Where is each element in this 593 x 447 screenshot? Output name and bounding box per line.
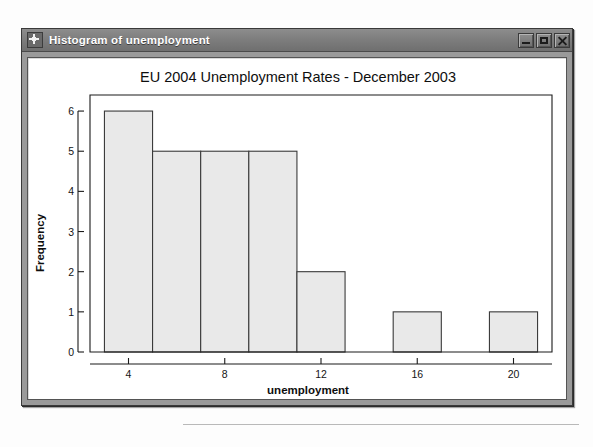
window-title: Histogram of unemployment — [49, 34, 516, 46]
y-tick-label: 5 — [68, 145, 74, 157]
x-tick-label: 16 — [411, 368, 423, 380]
histogram-bar — [249, 151, 297, 352]
histogram-bar — [201, 151, 249, 352]
histogram-bar — [104, 111, 152, 352]
histogram-plot: EU 2004 Unemployment Rates - December 20… — [28, 58, 566, 399]
scan-artifact-line — [183, 424, 579, 425]
y-tick-label: 3 — [68, 226, 74, 238]
histogram-bar — [297, 272, 345, 352]
y-tick-label: 2 — [68, 266, 74, 278]
window-titlebar[interactable]: Histogram of unemployment — [22, 29, 572, 52]
histogram-bar — [153, 151, 201, 352]
chart-title: EU 2004 Unemployment Rates - December 20… — [140, 69, 456, 85]
y-tick-label: 4 — [68, 185, 74, 197]
x-tick-label: 12 — [315, 368, 327, 380]
x-tick-label: 8 — [222, 368, 228, 380]
y-tick-label: 1 — [68, 306, 74, 318]
x-axis: 48121620 — [90, 358, 552, 380]
application-window: Histogram of unemployment EU 2004 Unempl… — [21, 28, 573, 406]
y-tick-label: 0 — [68, 346, 74, 358]
x-tick-label: 20 — [508, 368, 520, 380]
minimize-button[interactable] — [518, 33, 534, 48]
y-axis: 0123456 — [68, 105, 84, 358]
maximize-button[interactable] — [536, 33, 552, 48]
histogram-bar — [489, 312, 537, 352]
close-icon[interactable] — [554, 33, 570, 48]
histogram-svg: EU 2004 Unemployment Rates - December 20… — [28, 58, 568, 401]
y-axis-title: Frequency — [34, 213, 46, 272]
x-tick-label: 4 — [126, 368, 132, 380]
y-tick-label: 6 — [68, 105, 74, 117]
app-window-icon — [27, 32, 43, 48]
histogram-bar — [393, 312, 441, 352]
x-axis-title: unemployment — [267, 384, 349, 396]
bar-series — [104, 111, 537, 352]
window-client-area: EU 2004 Unemployment Rates - December 20… — [27, 57, 567, 400]
